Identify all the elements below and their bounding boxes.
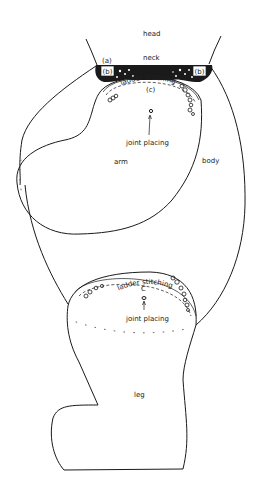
leg-fold-dots <box>76 322 192 333</box>
joint-dot-lower <box>142 297 146 300</box>
diagram-svg: ladder stitching (c) joint placing head … <box>0 0 254 488</box>
leg-label: leg <box>134 391 145 399</box>
head-outline-left <box>86 39 97 65</box>
lower-stitch-arc <box>79 284 191 316</box>
head-label: head <box>143 30 160 38</box>
body-label: body <box>202 157 219 165</box>
b-right-label: (b) <box>195 68 205 76</box>
joint-placing-upper-label: joint placing <box>125 139 169 147</box>
arm-label: arm <box>114 158 128 166</box>
joint-arrow-lower <box>143 301 146 310</box>
b-left-label: (b) <box>103 68 113 76</box>
doll-pattern-diagram: ladder stitching (c) joint placing head … <box>0 0 254 488</box>
neck-label: neck <box>143 54 161 62</box>
leg-outline <box>51 272 196 470</box>
joint-placing-lower-label: joint placing <box>125 315 169 323</box>
arm-outline <box>17 77 202 234</box>
a-label: (a) <box>102 57 112 65</box>
head-outline-right <box>209 36 221 64</box>
c-upper-label: (c) <box>146 86 156 94</box>
joint-arrow-upper <box>149 115 152 135</box>
c-lower-label: C <box>141 285 146 293</box>
joint-dot-upper <box>149 109 152 112</box>
